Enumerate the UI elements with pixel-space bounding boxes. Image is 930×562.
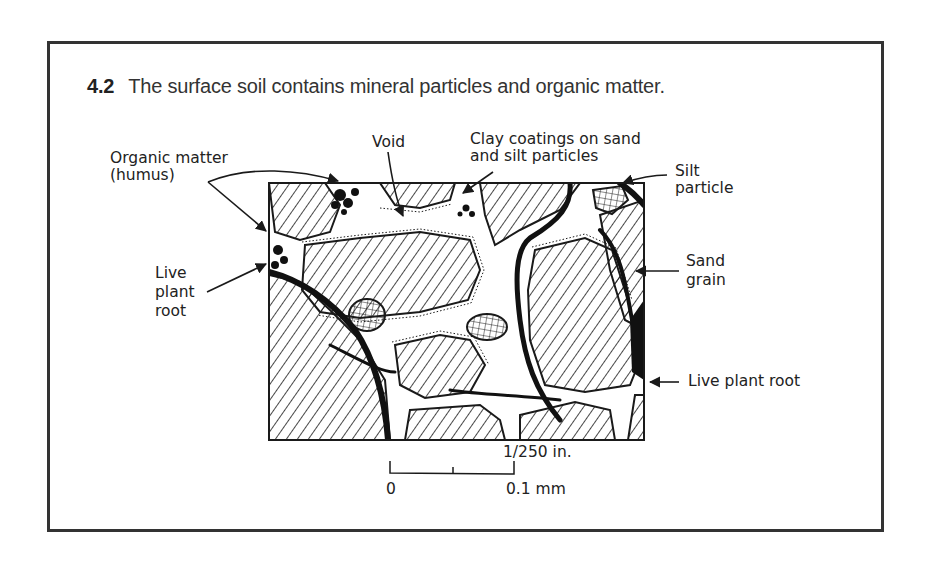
label-organic-matter: Organic matter (humus) bbox=[110, 150, 228, 184]
label-clay-line1: Clay coatings on sand bbox=[470, 131, 641, 148]
scale-bar bbox=[390, 461, 514, 474]
label-live-root-left-line1: Live bbox=[155, 264, 195, 283]
label-organic-matter-line2: (humus) bbox=[110, 167, 228, 184]
label-silt-particle: Silt particle bbox=[675, 163, 733, 197]
label-clay-line2: and silt particles bbox=[470, 148, 641, 165]
label-live-plant-root-left: Live plant root bbox=[155, 264, 195, 321]
label-organic-matter-line1: Organic matter bbox=[110, 150, 228, 167]
label-live-root-left-line3: root bbox=[155, 302, 195, 321]
soil-illustration bbox=[0, 0, 930, 562]
scale-top-label: 1/250 in. bbox=[503, 444, 572, 461]
label-live-plant-root-right: Live plant root bbox=[688, 373, 800, 390]
label-live-root-left-line2: plant bbox=[155, 283, 195, 302]
label-void: Void bbox=[372, 134, 405, 151]
label-sand-line2: grain bbox=[686, 271, 726, 290]
scale-left-label: 0 bbox=[386, 481, 396, 498]
label-clay-coatings: Clay coatings on sand and silt particles bbox=[470, 131, 641, 165]
label-sand-line1: Sand bbox=[686, 252, 726, 271]
scale-right-label: 0.1 mm bbox=[506, 481, 566, 498]
label-sand-grain: Sand grain bbox=[686, 252, 726, 290]
label-silt-line1: Silt bbox=[675, 163, 733, 180]
label-silt-line2: particle bbox=[675, 180, 733, 197]
